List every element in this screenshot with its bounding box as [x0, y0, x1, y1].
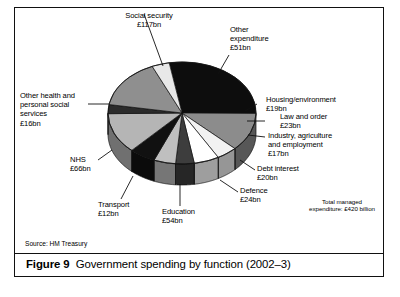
leader-debt-interest	[240, 160, 255, 170]
label-education: Education £54bn	[162, 207, 232, 225]
figure-caption-text: Government spending by function (2002–3)	[76, 258, 291, 270]
label-other-health: Other health and personal social service…	[20, 91, 100, 128]
label-transport: Transport £12bn	[98, 200, 168, 218]
label-housing-environment: Housing/environment £19bn	[266, 95, 384, 113]
leader-transport	[121, 176, 133, 199]
source-note: Source: HM Treasury	[25, 240, 87, 247]
leader-defence	[220, 180, 238, 192]
total-managed-expenditure-note: Total managed expenditure: £420 billion	[292, 198, 392, 213]
figure-page: Social security £117bn Other expenditure…	[0, 0, 400, 297]
pie-top-faces	[108, 62, 256, 164]
pie-slice-social-security	[169, 62, 256, 113]
label-law-and-order: Law and order £23bn	[280, 112, 380, 130]
label-debt-interest: Debt interest £20bn	[257, 164, 347, 182]
caption-divider	[15, 253, 383, 254]
label-social-security: Social security £117bn	[103, 11, 195, 29]
label-nhs: NHS £66bn	[70, 155, 116, 173]
label-industry: Industry, agriculture and employment £17…	[268, 131, 380, 159]
pie-side-industry-agriculture-and-employment	[176, 163, 195, 185]
figure-number: Figure 9	[26, 258, 76, 270]
figure-caption: Figure 9 Government spending by function…	[26, 258, 291, 270]
label-other-expenditure: Other expenditure £51bn	[230, 25, 300, 53]
